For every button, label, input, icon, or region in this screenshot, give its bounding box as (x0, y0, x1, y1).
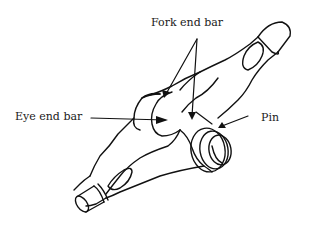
fork-jaw (134, 92, 180, 136)
diagram-canvas: Fork end bar Eye end bar Pin (0, 0, 314, 225)
label-fork-end-bar: Fork end bar (151, 17, 223, 28)
label-eye-end-bar: Eye end bar (15, 111, 82, 122)
label-pin: Pin (261, 112, 279, 123)
fork-end-bar-shaft (150, 22, 290, 118)
fork-end-bar-pointers (162, 39, 197, 120)
